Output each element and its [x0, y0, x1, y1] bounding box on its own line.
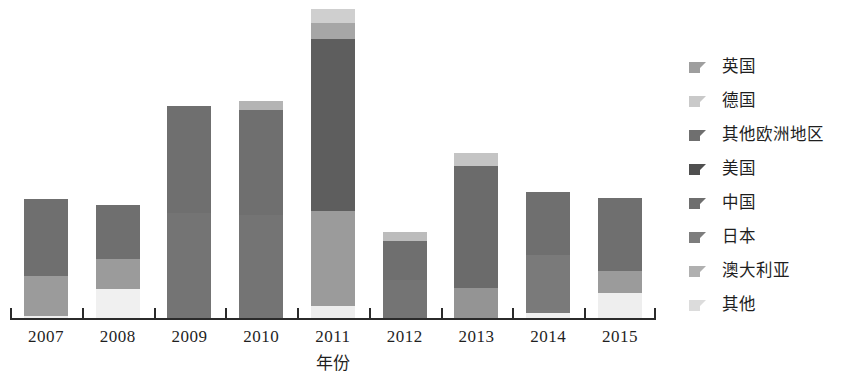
bar-segment — [526, 192, 570, 255]
x-axis-line — [10, 318, 656, 320]
bar-stack — [454, 153, 498, 319]
bar-stack — [526, 192, 570, 319]
legend-item-澳大利亚[interactable]: 澳大利亚 — [688, 254, 843, 288]
x-tick-label-2014: 2014 — [513, 324, 584, 350]
bar-segment — [311, 23, 355, 39]
bar-stack — [598, 198, 642, 319]
legend-item-英国[interactable]: 英国 — [688, 50, 843, 84]
bar-segment — [383, 280, 427, 319]
bar-segment — [598, 198, 642, 271]
legend-swatch-icon — [688, 299, 708, 312]
legend-item-其他欧洲地区[interactable]: 其他欧洲地区 — [688, 118, 843, 152]
legend-swatch-icon — [688, 265, 708, 278]
legend-label: 日本 — [722, 227, 756, 247]
x-axis-tick-labels: 200720082009201020112012201320142015 — [10, 324, 656, 350]
bar-segment — [96, 259, 140, 289]
bar-segment — [454, 166, 498, 288]
bar-segment — [311, 39, 355, 211]
bar-segment — [96, 289, 140, 319]
bar-segment — [383, 232, 427, 241]
bar-segment — [311, 9, 355, 23]
x-tick-label-2008: 2008 — [82, 324, 153, 350]
bar-segment — [24, 276, 68, 316]
axis-tick — [654, 308, 656, 319]
x-tick-label-2015: 2015 — [585, 324, 656, 350]
x-axis-title: 年份 — [10, 352, 656, 376]
bar-segment — [454, 153, 498, 166]
bar-segment — [383, 241, 427, 280]
legend-item-日本[interactable]: 日本 — [688, 220, 843, 254]
legend-label: 英国 — [722, 57, 756, 77]
axis-tick — [297, 308, 299, 319]
legend-swatch-icon — [688, 231, 708, 244]
bar-segment — [167, 213, 211, 319]
axis-tick — [225, 308, 227, 319]
x-tick-label-2011: 2011 — [297, 324, 368, 350]
bar-stack — [383, 232, 427, 319]
bar-segment — [239, 215, 283, 319]
axis-tick — [512, 308, 514, 319]
bar-stack — [239, 101, 283, 319]
legend-label: 其他 — [722, 295, 756, 315]
legend-label: 澳大利亚 — [722, 261, 790, 281]
bar-group-2012 — [369, 0, 440, 319]
legend-item-中国[interactable]: 中国 — [688, 186, 843, 220]
bar-stack — [24, 199, 68, 319]
axis-tick — [584, 308, 586, 319]
legend-swatch-icon — [688, 197, 708, 210]
axis-tick — [10, 308, 12, 319]
bar-group-2010 — [226, 0, 297, 319]
bars-layer — [10, 0, 656, 319]
bar-group-2015 — [585, 0, 656, 319]
bar-stack — [167, 106, 211, 319]
legend-label: 美国 — [722, 159, 756, 179]
bar-group-2014 — [513, 0, 584, 319]
bar-segment — [239, 101, 283, 110]
bar-segment — [454, 288, 498, 319]
bar-group-2008 — [82, 0, 153, 319]
stacked-bar-chart: 200720082009201020112012201320142015 年份 … — [0, 0, 843, 383]
bar-group-2009 — [154, 0, 225, 319]
legend-swatch-icon — [688, 95, 708, 108]
bar-group-2007 — [10, 0, 81, 319]
bar-segment — [167, 106, 211, 213]
axis-tick — [154, 308, 156, 319]
legend-label: 其他欧洲地区 — [722, 125, 824, 145]
bar-segment — [24, 199, 68, 276]
legend-swatch-icon — [688, 129, 708, 142]
bar-stack — [96, 205, 140, 319]
bar-segment — [598, 293, 642, 319]
bar-segment — [239, 110, 283, 215]
bar-segment — [526, 255, 570, 313]
legend-label: 德国 — [722, 91, 756, 111]
axis-tick — [441, 308, 443, 319]
bar-segment — [311, 211, 355, 306]
legend-item-美国[interactable]: 美国 — [688, 152, 843, 186]
legend-item-德国[interactable]: 德国 — [688, 84, 843, 118]
x-tick-label-2007: 2007 — [10, 324, 81, 350]
bar-segment — [598, 271, 642, 293]
axis-tick — [369, 308, 371, 319]
plot-area — [10, 0, 656, 319]
legend-item-其他[interactable]: 其他 — [688, 288, 843, 322]
axis-tick — [82, 308, 84, 319]
bar-group-2011 — [297, 0, 368, 319]
legend-swatch-icon — [688, 163, 708, 176]
legend-label: 中国 — [722, 193, 756, 213]
x-tick-label-2012: 2012 — [369, 324, 440, 350]
chart-legend: 英国德国其他欧洲地区美国中国日本澳大利亚其他 — [688, 50, 843, 322]
legend-swatch-icon — [688, 61, 708, 74]
x-tick-label-2010: 2010 — [226, 324, 297, 350]
bar-segment — [96, 205, 140, 259]
bar-group-2013 — [441, 0, 512, 319]
bar-stack — [311, 9, 355, 319]
x-tick-label-2009: 2009 — [154, 324, 225, 350]
x-tick-label-2013: 2013 — [441, 324, 512, 350]
